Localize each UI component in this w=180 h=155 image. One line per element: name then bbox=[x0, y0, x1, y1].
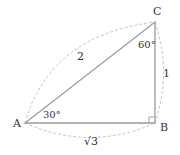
triangle-diagram: A B C 2 1 √3 30° 60° bbox=[0, 0, 180, 155]
side-label-ab: √3 bbox=[84, 135, 98, 148]
right-angle-mark bbox=[149, 117, 155, 123]
angle-label-c: 60° bbox=[138, 39, 156, 50]
triangle-abc bbox=[25, 22, 155, 123]
angle-label-a: 30° bbox=[43, 109, 61, 120]
side-label-bc: 1 bbox=[163, 67, 170, 80]
vertex-label-c: C bbox=[153, 5, 161, 18]
side-label-ac: 2 bbox=[77, 50, 84, 63]
vertex-label-a: A bbox=[12, 117, 22, 130]
vertex-label-b: B bbox=[160, 121, 168, 134]
